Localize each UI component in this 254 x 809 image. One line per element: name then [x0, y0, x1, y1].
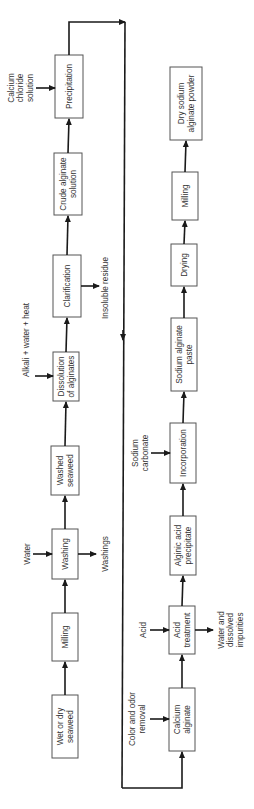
process-label-dissolution-line: Dissolution [57, 356, 66, 396]
input-label-washing: Water [23, 543, 32, 565]
process-box-alginic-acid-precipitate: Alginic acidprecipitate [170, 516, 196, 575]
transfer-line-vertical [122, 22, 125, 788]
process-label-incorporation: Incorporation [179, 429, 188, 477]
transfer-arrow-top [69, 22, 125, 55]
input-label-precipitation-line: solution [26, 73, 35, 102]
flow-arrow [66, 318, 67, 352]
process-box-crude-alginate-solution: Crude alginatesolution [54, 153, 82, 215]
process-box-calcium-alginate: Calciumalginate [169, 688, 195, 751]
input-label-precipitation-line: chloride [16, 73, 25, 102]
process-box-dry-sodium-alginate-powder: Dry sodiumalginate powder [170, 67, 202, 140]
process-label-crude-alginate-solution-line: Crude alginate [59, 157, 68, 211]
input-label-calcium-alginate: Color and odorremoval [128, 692, 147, 746]
output-label-clarification: Insoluble residue [101, 257, 110, 319]
output-label-acid-treatment-line: Water and [217, 611, 226, 649]
process-label-alginic-acid-precipitate: Alginic acidprecipitate [174, 524, 193, 566]
process-label-incorporation-line: Incorporation [179, 429, 188, 477]
input-label-acid-treatment: Acid [139, 622, 148, 638]
process-label-dry-sodium-alginate-powder-line: Dry sodium [177, 83, 186, 125]
process-box-incorporation: Incorporation [170, 423, 196, 483]
input-label-incorporation: Sodiumcarbonate [131, 434, 150, 471]
process-label-clarification: Clarification [63, 264, 72, 307]
output-label-washing: Washings [101, 536, 110, 572]
process-label-washing: Washing [61, 538, 70, 570]
process-label-calcium-alginate-line: Calcium [173, 705, 182, 735]
process-label-wet-dry-seaweed-line: seaweed [66, 710, 75, 743]
output-label-washing-line: Washings [101, 536, 110, 572]
output-label-clarification-line: Insoluble residue [101, 257, 110, 319]
process-label-sodium-alginate-paste-line: Sodium alginate [175, 325, 184, 384]
output-label-acid-treatment-line: dissolved [226, 612, 235, 647]
process-box-drying: Drying [171, 244, 197, 286]
process-label-washing-line: Washing [61, 538, 70, 570]
flowchart-canvas: Wet or dryseaweedMillingWashingWashedsea… [0, 0, 254, 809]
flow-arrow [185, 141, 186, 172]
process-label-sodium-alginate-paste-line: paste [185, 344, 194, 364]
process-label-dissolution-line: of alginates [67, 356, 76, 398]
process-label-precipitation-line: Precipitation [65, 64, 74, 110]
output-label-acid-treatment-line: impurities [236, 612, 245, 647]
input-label-dissolution: Alkali + water + heat [22, 302, 31, 377]
process-label-dry-sodium-alginate-powder: Dry sodiumalginate powder [177, 74, 196, 132]
process-box-precipitation: Precipitation [55, 55, 83, 118]
process-label-drying: Drying [180, 253, 189, 277]
process-label-milling-1: Milling [61, 625, 70, 649]
process-label-washed-seaweed-line: seaweed [66, 454, 75, 487]
process-label-alginic-acid-precipitate-line: Alginic acid [174, 524, 183, 566]
input-label-washing-line: Water [23, 543, 32, 565]
process-label-drying-line: Drying [180, 253, 189, 277]
transfer-arrow-bottom [122, 752, 182, 788]
process-label-washed-seaweed: Washedseaweed [56, 454, 75, 487]
process-box-washed-seaweed: Washedseaweed [51, 446, 79, 495]
process-label-milling-2: Milling [181, 184, 190, 208]
input-label-calcium-alginate-line: removal [138, 704, 147, 733]
process-box-sodium-alginate-paste: Sodium alginatepaste [171, 318, 197, 391]
process-label-dry-sodium-alginate-powder-line: alginate powder [187, 74, 196, 132]
input-label-precipitation: Calciumchloridesolution [7, 73, 35, 103]
input-label-incorporation-line: Sodium [131, 439, 140, 467]
flow-arrow [65, 402, 66, 446]
process-label-milling-1-line: Milling [61, 625, 70, 649]
flow-arrow [67, 216, 68, 255]
process-label-wet-dry-seaweed: Wet or dryseaweed [56, 707, 75, 746]
input-label-dissolution-line: Alkali + water + heat [22, 302, 31, 377]
process-label-precipitation: Precipitation [65, 64, 74, 110]
process-box-acid-treatment: Acidtreatment [169, 606, 195, 654]
process-box-washing: Washing [52, 529, 78, 579]
flow-arrow [182, 576, 183, 606]
process-label-calcium-alginate-line: alginate [183, 705, 192, 734]
process-label-calcium-alginate: Calciumalginate [173, 705, 192, 735]
process-label-washed-seaweed-line: Washed [56, 455, 65, 485]
flow-arrow [183, 392, 184, 423]
input-label-acid-treatment-line: Acid [139, 622, 148, 638]
process-box-milling-1: Milling [52, 613, 78, 661]
flow-arrow [68, 119, 69, 153]
process-label-dissolution: Dissolutionof alginates [57, 356, 76, 398]
output-label-acid-treatment: Water anddissolvedimpurities [217, 611, 245, 649]
process-box-dissolution: Dissolutionof alginates [53, 352, 79, 401]
input-label-precipitation-line: Calcium [7, 73, 16, 103]
process-label-alginic-acid-precipitate-line: precipitate [184, 526, 193, 564]
process-label-acid-treatment-line: Acid [173, 622, 182, 638]
process-box-wet-dry-seaweed: Wet or dryseaweed [52, 695, 78, 758]
process-box-milling-2: Milling [172, 172, 198, 220]
process-label-acid-treatment-line: treatment [183, 612, 192, 647]
input-label-incorporation-line: carbonate [141, 434, 150, 471]
process-box-clarification: Clarification [53, 255, 81, 317]
input-label-calcium-alginate-line: Color and odor [128, 692, 137, 746]
flow-arrow [184, 221, 185, 244]
process-label-milling-2-line: Milling [181, 184, 190, 208]
process-label-wet-dry-seaweed-line: Wet or dry [56, 707, 65, 746]
process-label-crude-alginate-solution-line: solution [69, 169, 78, 198]
process-label-clarification-line: Clarification [63, 264, 72, 307]
